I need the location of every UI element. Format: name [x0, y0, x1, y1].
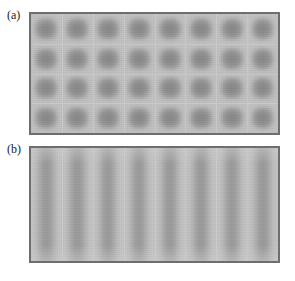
lattice-site [247, 103, 278, 133]
panel-label-b: (b) [7, 143, 21, 155]
lattice-stripe [155, 148, 186, 261]
lattice-stripe [62, 148, 93, 261]
lattice-site [31, 44, 62, 74]
lattice-site [185, 103, 216, 133]
lattice-site [62, 103, 93, 133]
panel-b-surface [31, 148, 278, 261]
lattice-stripe [216, 148, 247, 261]
lattice-2d-grid [31, 14, 278, 133]
lattice-site [62, 14, 93, 44]
lattice-site [93, 14, 124, 44]
lattice-stripe [31, 148, 62, 261]
lattice-site [185, 74, 216, 104]
lattice-site [247, 44, 278, 74]
lattice-site [31, 14, 62, 44]
lattice-site [155, 103, 186, 133]
lattice-site [62, 44, 93, 74]
figure-root: (a) (b) [0, 0, 295, 281]
lattice-site [124, 74, 155, 104]
panel-b-image [29, 146, 280, 263]
lattice-stripe [93, 148, 124, 261]
lattice-site [247, 14, 278, 44]
lattice-site [93, 103, 124, 133]
panel-a-image [29, 12, 280, 135]
lattice-site [216, 74, 247, 104]
lattice-site [31, 74, 62, 104]
lattice-site [155, 74, 186, 104]
lattice-site [155, 14, 186, 44]
lattice-site [155, 44, 186, 74]
lattice-stripe [247, 148, 278, 261]
lattice-site [185, 44, 216, 74]
lattice-site [124, 14, 155, 44]
panel-a-surface [31, 14, 278, 133]
lattice-site [185, 14, 216, 44]
lattice-site [124, 103, 155, 133]
lattice-stripe [185, 148, 216, 261]
lattice-site [216, 14, 247, 44]
lattice-site [93, 44, 124, 74]
lattice-site [216, 44, 247, 74]
lattice-stripe [124, 148, 155, 261]
lattice-site [216, 103, 247, 133]
lattice-1d-grid [31, 148, 278, 261]
lattice-site [62, 74, 93, 104]
lattice-site [31, 103, 62, 133]
panel-label-a: (a) [7, 9, 20, 21]
lattice-site [247, 74, 278, 104]
lattice-site [124, 44, 155, 74]
lattice-site [93, 74, 124, 104]
